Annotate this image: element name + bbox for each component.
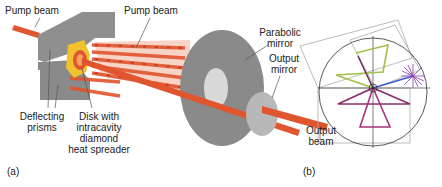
label-deflecting-prisms-1: Deflecting bbox=[12, 111, 72, 122]
label-disk-4: heat spreader bbox=[60, 144, 138, 155]
label-disk-2: intracavity bbox=[64, 122, 134, 133]
label-pump-beam-top: Pump beam bbox=[124, 5, 178, 16]
label-output-beam-1: Output bbox=[300, 125, 342, 136]
panel-tag-a: (a) bbox=[7, 166, 19, 177]
beam-path-diagram bbox=[0, 0, 442, 187]
panel-tag-b: (b) bbox=[303, 166, 315, 177]
label-parabolic-mirror-1: Parabolic bbox=[252, 27, 308, 38]
label-disk-1: Disk with bbox=[64, 111, 134, 122]
label-output-beam-2: beam bbox=[300, 136, 342, 147]
label-output-mirror-2: mirror bbox=[262, 64, 306, 75]
figure: Pump beam Pump beam Parabolic mirror Out… bbox=[0, 0, 442, 187]
label-parabolic-mirror-2: mirror bbox=[252, 38, 308, 49]
label-deflecting-prisms-2: prisms bbox=[12, 122, 72, 133]
label-pump-beam-left: Pump beam bbox=[5, 5, 59, 16]
label-disk-3: diamond bbox=[64, 133, 134, 144]
burst-icon bbox=[401, 64, 425, 88]
label-output-mirror-1: Output bbox=[262, 53, 306, 64]
